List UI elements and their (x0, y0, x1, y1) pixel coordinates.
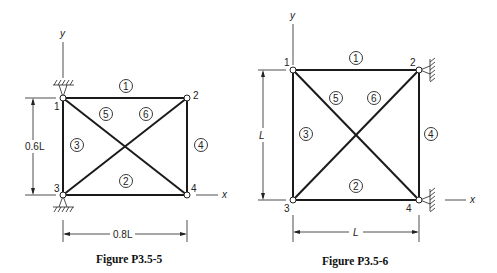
node-label-1: 1 (54, 101, 60, 112)
element-label-5: 5 (100, 108, 113, 121)
node-label-3: 3 (284, 203, 290, 214)
svg-text:5: 5 (333, 93, 339, 104)
element-label-4: 4 (195, 139, 208, 152)
element-label-4: 4 (425, 128, 438, 141)
node-label-4: 4 (406, 203, 412, 214)
element-label-1: 1 (350, 52, 363, 65)
node-3 (60, 192, 66, 198)
svg-text:L: L (259, 130, 265, 141)
svg-text:2: 2 (353, 181, 359, 192)
figure-p3-5-5: y 1 (25, 28, 228, 266)
svg-text:4: 4 (428, 129, 434, 140)
node-3 (290, 197, 296, 203)
height-dimension: L (258, 70, 286, 200)
element-label-3: 3 (71, 139, 84, 152)
x-axis-label: x (221, 189, 228, 200)
element-label-6: 6 (368, 92, 381, 105)
node-4 (184, 192, 190, 198)
node-label-4: 4 (191, 183, 197, 194)
element-label-6: 6 (140, 108, 153, 121)
figure-caption: Figure P3.5-5 (96, 253, 162, 266)
node-1 (290, 67, 296, 73)
element-label-2: 2 (120, 175, 133, 188)
node-label-1: 1 (284, 57, 290, 68)
svg-text:6: 6 (143, 109, 149, 120)
svg-text:3: 3 (74, 140, 80, 151)
node-label-3: 3 (54, 183, 60, 194)
node-2 (184, 95, 190, 101)
width-dimension: L (293, 215, 419, 242)
height-dimension: 0.6L (25, 98, 56, 195)
svg-text:2: 2 (123, 176, 129, 187)
node-4 (416, 197, 422, 203)
figure-p3-5-6: y (258, 10, 476, 268)
svg-text:6: 6 (371, 93, 377, 104)
diagram-canvas: y 1 (0, 0, 497, 273)
node-label-2: 2 (193, 90, 199, 101)
pin-support-icon (53, 80, 74, 97)
node-label-2: 2 (410, 57, 416, 68)
svg-text:1: 1 (123, 81, 129, 92)
svg-text:0.6L: 0.6L (25, 141, 45, 152)
figure-caption: Figure P3.5-6 (322, 255, 388, 268)
element-label-5: 5 (330, 92, 343, 105)
svg-text:5: 5 (103, 109, 109, 120)
node-2 (416, 67, 422, 73)
x-axis-label: x (469, 194, 476, 205)
element-label-2: 2 (350, 180, 363, 193)
svg-text:1: 1 (353, 53, 359, 64)
y-axis-label: y (59, 28, 66, 39)
element-label-3: 3 (300, 128, 313, 141)
y-axis-label: y (289, 10, 296, 21)
svg-text:L: L (353, 227, 359, 238)
svg-text:0.8L: 0.8L (113, 229, 133, 240)
node-1 (60, 95, 66, 101)
element-label-1: 1 (120, 80, 133, 93)
width-dimension: 0.8L (63, 220, 187, 242)
svg-text:4: 4 (198, 140, 204, 151)
svg-text:3: 3 (303, 129, 309, 140)
